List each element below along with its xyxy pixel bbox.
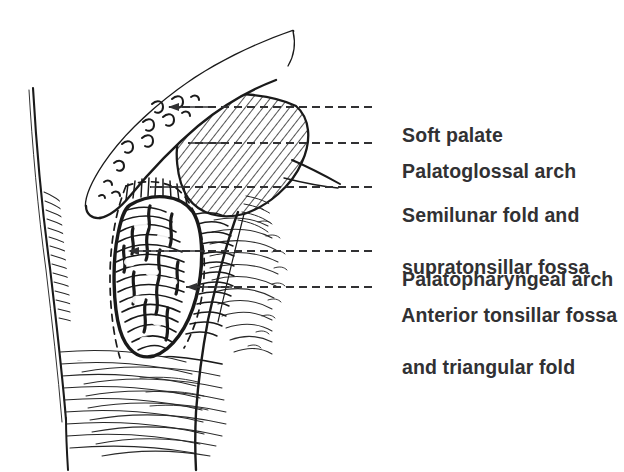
anatomy-figure: Soft palate Palatoglossal arch Semilunar… (0, 0, 624, 472)
pharyngeal-wall (210, 207, 287, 354)
label-anterior-tonsillar-fossa-line1: Anterior tonsillar fossa (401, 304, 617, 326)
label-semilunar-fold-line1: Semilunar fold and (402, 204, 579, 226)
label-anterior-tonsillar-fossa-line2: and triangular fold (402, 356, 575, 378)
label-anterior-tonsillar-fossa: Anterior tonsillar fossa and triangular … (380, 276, 617, 406)
tongue-structure (78, 355, 226, 456)
